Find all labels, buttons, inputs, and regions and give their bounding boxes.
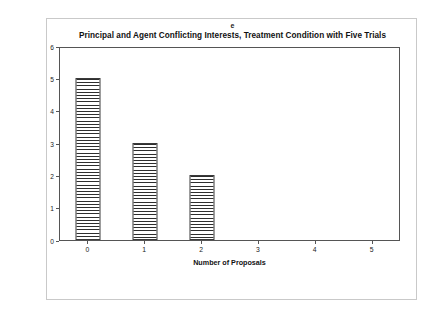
- x-axis-tick: 2: [173, 241, 230, 257]
- figure-frame: e Principal and Agent Conflicting Intere…: [46, 18, 417, 300]
- x-tick-mark: [87, 241, 88, 244]
- x-tick-mark: [258, 241, 259, 244]
- x-tick-label: 0: [59, 245, 116, 254]
- x-axis-title: Number of Proposals: [59, 258, 400, 267]
- x-axis-tick: 1: [116, 241, 173, 257]
- x-tick-mark: [201, 241, 202, 244]
- x-tick-label: 5: [343, 245, 400, 254]
- bar-slot: [287, 48, 344, 240]
- bar-slot: [60, 48, 117, 240]
- x-axis: 012345: [59, 241, 400, 257]
- x-tick-mark: [372, 241, 373, 244]
- bar: [133, 143, 158, 240]
- y-tick-label: 6: [50, 43, 54, 52]
- bars-container: [60, 48, 399, 240]
- bar-slot: [344, 48, 401, 240]
- x-tick-mark: [315, 241, 316, 244]
- bar: [76, 78, 101, 240]
- x-axis-tick: 3: [230, 241, 287, 257]
- bar-slot: [117, 48, 174, 240]
- x-axis-tick: 4: [286, 241, 343, 257]
- x-tick-label: 3: [230, 245, 287, 254]
- x-axis-tick: 5: [343, 241, 400, 257]
- chart-title: Principal and Agent Conflicting Interest…: [47, 31, 418, 41]
- x-tick-mark: [144, 241, 145, 244]
- y-tick-label: 0: [50, 237, 54, 246]
- x-tick-label: 4: [286, 245, 343, 254]
- y-tick-label: 3: [50, 140, 54, 149]
- panel-letter: e: [47, 21, 418, 30]
- y-axis: 0123456: [47, 47, 59, 241]
- y-tick-label: 4: [50, 107, 54, 116]
- bar-slot: [174, 48, 231, 240]
- y-tick-label: 1: [50, 204, 54, 213]
- plot-area: [59, 47, 400, 241]
- y-tick-label: 5: [50, 75, 54, 84]
- x-tick-label: 2: [173, 245, 230, 254]
- y-tick-label: 2: [50, 172, 54, 181]
- bar-slot: [231, 48, 288, 240]
- x-tick-label: 1: [116, 245, 173, 254]
- bar: [190, 175, 215, 240]
- x-axis-tick: 0: [59, 241, 116, 257]
